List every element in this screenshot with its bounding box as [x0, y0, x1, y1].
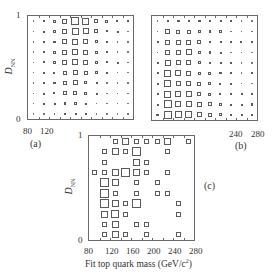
x-label-close: )	[189, 259, 192, 269]
data-box	[155, 191, 160, 196]
data-box	[96, 113, 98, 115]
panel-c-x-tick: 120	[105, 246, 119, 256]
data-box	[220, 62, 222, 64]
data-box	[63, 91, 67, 95]
data-box	[241, 104, 243, 106]
data-box	[127, 41, 129, 43]
data-box	[64, 113, 66, 115]
data-box	[95, 40, 98, 43]
data-box	[54, 103, 56, 105]
data-box	[95, 51, 98, 54]
data-box	[62, 60, 67, 65]
data-box	[43, 31, 45, 33]
axis-tick	[215, 118, 216, 120]
data-box	[72, 28, 79, 35]
data-box	[33, 20, 35, 22]
axis-tick	[215, 16, 216, 18]
data-box	[33, 113, 35, 115]
data-box	[230, 41, 232, 43]
data-box	[123, 232, 128, 237]
y-label-sub: NN	[10, 59, 16, 68]
y-label-sub: NN	[70, 179, 76, 188]
data-box	[113, 191, 118, 196]
data-box	[164, 111, 172, 119]
data-box	[134, 191, 139, 196]
axis-tick	[184, 118, 185, 120]
data-box	[106, 61, 108, 63]
x-label-text: Fit top quark mass (GeV/c	[85, 259, 186, 269]
axis-tick	[110, 136, 111, 138]
data-box	[198, 51, 201, 54]
axis-tick	[173, 136, 174, 138]
data-box	[241, 20, 243, 22]
axis-tick	[112, 117, 113, 119]
data-box	[102, 222, 107, 227]
data-box	[144, 160, 149, 165]
data-box	[73, 70, 78, 75]
axis-tick	[163, 238, 164, 240]
data-box	[112, 179, 119, 186]
data-box	[144, 222, 149, 227]
data-box	[164, 138, 171, 145]
data-box	[165, 149, 170, 154]
panel-c-plot	[88, 135, 195, 241]
axis-tick	[100, 136, 101, 138]
data-box	[230, 104, 232, 106]
axis-tick	[152, 136, 153, 138]
panel-b-label: (b)	[235, 140, 247, 151]
axis-tick	[194, 118, 195, 120]
axis-tick	[142, 238, 143, 240]
data-box	[251, 72, 253, 74]
data-box	[198, 72, 201, 75]
data-box	[63, 81, 67, 85]
data-box	[251, 62, 253, 64]
data-box	[241, 31, 243, 33]
data-box	[72, 39, 78, 45]
data-box	[106, 41, 108, 43]
data-box	[117, 51, 119, 53]
axis-tick	[131, 136, 132, 138]
data-box	[176, 40, 181, 45]
data-box	[123, 212, 128, 217]
data-box	[64, 102, 67, 105]
axis-tick	[173, 16, 174, 18]
data-box	[102, 232, 107, 237]
panel-c-y-axis-label: DNN	[63, 179, 76, 195]
data-box	[198, 20, 201, 23]
data-box	[117, 93, 119, 95]
data-box	[132, 199, 141, 208]
panel-c-x-tick: 80	[84, 246, 93, 256]
data-box	[53, 20, 56, 23]
data-box	[176, 81, 181, 86]
panel-a-x-tick-120: 120	[40, 126, 54, 136]
data-box	[157, 62, 159, 64]
data-box	[185, 111, 192, 118]
data-box	[117, 103, 119, 105]
data-box	[72, 59, 78, 65]
data-box	[157, 52, 159, 54]
data-box	[94, 29, 98, 33]
data-box	[209, 41, 211, 43]
axis-tick	[70, 117, 71, 119]
data-box	[102, 170, 107, 175]
data-box	[176, 60, 181, 65]
data-box	[208, 72, 211, 75]
data-box	[220, 20, 222, 22]
axis-tick	[173, 118, 174, 120]
axis-tick	[39, 117, 40, 119]
axis-tick	[123, 16, 124, 18]
data-box	[241, 114, 243, 116]
data-box	[123, 201, 128, 206]
data-box	[33, 93, 35, 95]
data-box	[186, 91, 192, 97]
data-box	[112, 221, 119, 228]
data-box	[83, 50, 88, 55]
data-box	[241, 93, 243, 95]
panel-c-x-tick: 280	[189, 246, 203, 256]
axis-tick	[184, 16, 185, 18]
data-box	[219, 30, 222, 33]
panel-b-x-tick-240: 240	[229, 129, 243, 139]
data-box	[100, 178, 109, 187]
data-box	[117, 113, 119, 115]
data-box	[113, 139, 118, 144]
